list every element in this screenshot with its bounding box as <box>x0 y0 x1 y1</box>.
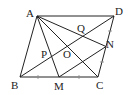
label-P: P <box>41 48 47 60</box>
label-M: M <box>54 80 64 92</box>
segment-AM <box>37 16 59 77</box>
segment-AN <box>37 16 106 47</box>
label-N: N <box>106 38 114 50</box>
label-B: B <box>11 79 18 91</box>
label-Q: Q <box>77 22 85 34</box>
label-C: C <box>96 79 103 91</box>
label-D: D <box>115 5 123 17</box>
label-A: A <box>26 7 34 19</box>
label-O: O <box>63 48 71 60</box>
geometry-diagram: A D B C M N O P Q <box>0 0 133 95</box>
